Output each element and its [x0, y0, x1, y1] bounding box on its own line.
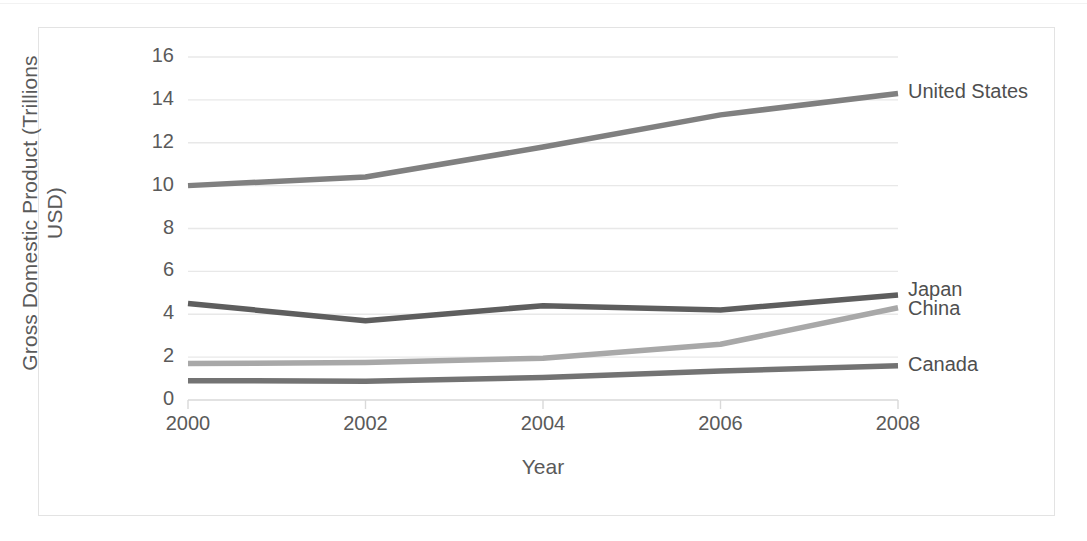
series-lines	[188, 93, 898, 381]
x-axis-tick-label: 2006	[666, 412, 776, 435]
series-label-china: China	[908, 297, 960, 320]
y-axis-tick-label: 10	[126, 173, 174, 196]
y-axis-tick-label: 12	[126, 130, 174, 153]
x-axis-tick-label: 2004	[488, 412, 598, 435]
y-axis-tick-label: 8	[126, 216, 174, 239]
y-axis-tick-label: 4	[126, 301, 174, 324]
x-axis-tickmarks	[188, 400, 898, 409]
y-axis-title: Gross Domestic Product (Trillions USD)	[17, 3, 67, 423]
series-line-united-states	[188, 93, 898, 185]
x-axis-tick-label: 2000	[133, 412, 243, 435]
series-line-japan	[188, 295, 898, 321]
series-line-canada	[188, 366, 898, 381]
series-label-canada: Canada	[908, 353, 978, 376]
y-axis-tick-label: 14	[126, 87, 174, 110]
x-axis-tick-label: 2008	[843, 412, 953, 435]
y-axis-tick-label: 0	[126, 387, 174, 410]
series-label-united-states: United States	[908, 80, 1028, 103]
y-axis-tick-label: 2	[126, 344, 174, 367]
x-axis-tick-label: 2002	[311, 412, 421, 435]
y-axis-tick-label: 6	[126, 258, 174, 281]
y-axis-tick-label: 16	[126, 44, 174, 67]
x-axis-title: Year	[188, 455, 898, 479]
